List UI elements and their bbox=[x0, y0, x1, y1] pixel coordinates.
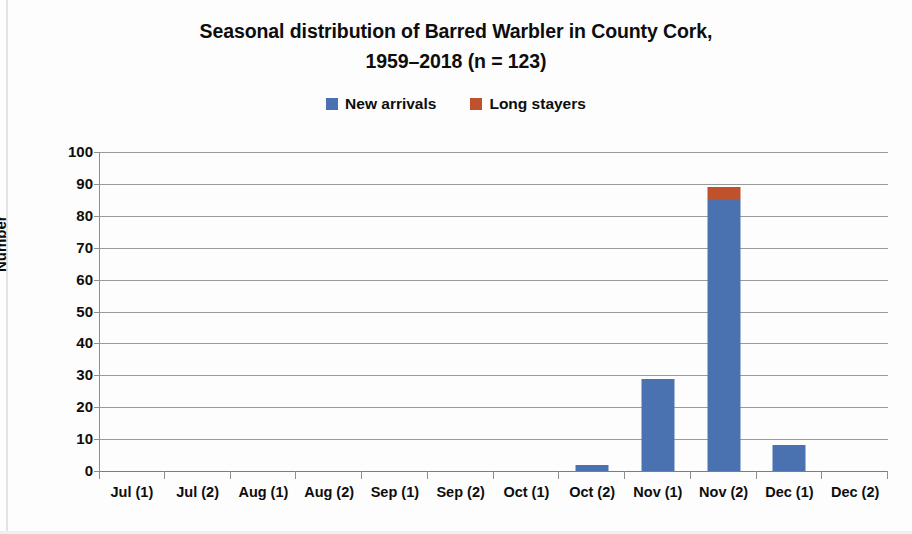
bar-slot bbox=[757, 152, 823, 471]
bar-slot bbox=[625, 152, 691, 471]
y-axis-tick-labels: 1009080706050403020100 bbox=[43, 152, 93, 471]
bar-slot bbox=[296, 152, 362, 471]
bar-slot bbox=[691, 152, 757, 471]
y-axis-tick-label: 20 bbox=[47, 398, 93, 415]
x-axis-tick-mark bbox=[757, 471, 823, 479]
x-axis-tick-label: Nov (1) bbox=[625, 484, 691, 500]
legend-item[interactable]: Long stayers bbox=[470, 95, 585, 113]
x-axis-tick-label: Jul (1) bbox=[99, 484, 165, 500]
x-axis-tick-mark bbox=[559, 471, 625, 479]
y-axis-title: Number bbox=[0, 215, 9, 272]
bar-segment[interactable] bbox=[641, 379, 674, 472]
bar-segment[interactable] bbox=[773, 445, 806, 471]
bar-slot bbox=[559, 152, 625, 471]
bar-slot bbox=[99, 152, 165, 471]
x-axis-tick-mark bbox=[625, 471, 691, 479]
chart-title-line-1: Seasonal distribution of Barred Warbler … bbox=[200, 20, 713, 42]
x-axis-tick-label: Oct (2) bbox=[559, 484, 625, 500]
x-axis-tick-mark bbox=[231, 471, 297, 479]
x-axis-ticks bbox=[99, 471, 888, 479]
x-axis-tick-mark bbox=[165, 471, 231, 479]
x-axis-tick-label: Oct (1) bbox=[494, 484, 560, 500]
legend-label: Long stayers bbox=[489, 95, 585, 113]
bar-stack[interactable] bbox=[641, 379, 674, 472]
bars-layer bbox=[99, 152, 888, 471]
x-axis-tick-label: Dec (2) bbox=[822, 484, 888, 500]
y-axis-tick-label: 80 bbox=[47, 207, 93, 224]
bar-segment[interactable] bbox=[707, 200, 740, 471]
y-axis-tick-label: 70 bbox=[47, 239, 93, 256]
y-axis-tick-label: 40 bbox=[47, 334, 93, 351]
y-axis-tick-label: 90 bbox=[47, 175, 93, 192]
bar-slot bbox=[231, 152, 297, 471]
x-axis-tick-mark bbox=[362, 471, 428, 479]
x-axis-tick-label: Jul (2) bbox=[165, 484, 231, 500]
chart-page: Seasonal distribution of Barred Warbler … bbox=[0, 0, 912, 534]
bar-stack[interactable] bbox=[707, 187, 740, 471]
x-axis-tick-mark bbox=[822, 471, 888, 479]
y-axis-tick-label: 0 bbox=[47, 462, 93, 479]
chart-legend: New arrivalsLong stayers bbox=[0, 95, 912, 113]
legend-swatch-icon bbox=[470, 98, 482, 110]
bar-slot bbox=[362, 152, 428, 471]
bar-slot bbox=[822, 152, 888, 471]
bar-stack[interactable] bbox=[773, 445, 806, 471]
legend-swatch-icon bbox=[326, 98, 338, 110]
y-axis-tick-label: 30 bbox=[47, 366, 93, 383]
y-axis-tick-label: 60 bbox=[47, 271, 93, 288]
x-axis-tick-mark bbox=[691, 471, 757, 479]
legend-label: New arrivals bbox=[345, 95, 436, 113]
x-axis-tick-mark bbox=[428, 471, 494, 479]
x-axis-tick-label: Sep (2) bbox=[428, 484, 494, 500]
x-axis-tick-label: Aug (1) bbox=[231, 484, 297, 500]
x-axis-tick-mark bbox=[99, 471, 165, 479]
bar-slot bbox=[165, 152, 231, 471]
bar-segment[interactable] bbox=[707, 187, 740, 200]
x-axis-tick-mark bbox=[494, 471, 560, 479]
legend-item[interactable]: New arrivals bbox=[326, 95, 436, 113]
x-axis-tick-label: Nov (2) bbox=[691, 484, 757, 500]
bar-slot bbox=[494, 152, 560, 471]
y-axis-tick-label: 100 bbox=[47, 143, 93, 160]
y-axis-tick-label: 10 bbox=[47, 430, 93, 447]
x-axis-tick-label: Aug (2) bbox=[296, 484, 362, 500]
x-axis-tick-labels: Jul (1)Jul (2)Aug (1)Aug (2)Sep (1)Sep (… bbox=[99, 484, 888, 500]
bar-slot bbox=[428, 152, 494, 471]
chart-title: Seasonal distribution of Barred Warbler … bbox=[0, 16, 912, 76]
x-axis-tick-label: Sep (1) bbox=[362, 484, 428, 500]
y-axis-tick-label: 50 bbox=[47, 303, 93, 320]
chart-title-line-2: 1959–2018 (n = 123) bbox=[0, 46, 912, 76]
x-axis-tick-mark bbox=[296, 471, 362, 479]
x-axis-tick-label: Dec (1) bbox=[757, 484, 823, 500]
